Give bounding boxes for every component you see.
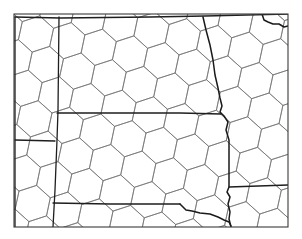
hex-cell	[256, 208, 291, 239]
red-river	[203, 17, 231, 227]
hex-cell	[0, 179, 19, 215]
map-container	[0, 0, 302, 239]
hex-cell	[119, 236, 154, 239]
hex-cell	[88, 229, 123, 239]
hex-cell	[271, 0, 302, 21]
hex-cell	[235, 232, 270, 239]
international-border	[15, 14, 288, 18]
hex-cell	[299, 161, 302, 197]
hex-cell	[291, 45, 302, 81]
hex-cell	[269, 69, 302, 105]
river-borders	[180, 14, 288, 227]
hex-cell	[289, 130, 302, 166]
north-south-dakota-border	[57, 113, 221, 114]
montana-wyoming-border	[15, 140, 55, 141]
hex-cell	[124, 0, 159, 18]
hex-cell	[239, 0, 274, 14]
hex-cell	[141, 212, 176, 239]
hex-cell	[208, 0, 243, 7]
hex-cell	[0, 233, 7, 239]
hex-cell	[0, 148, 9, 184]
minnesota-iowa-border	[229, 185, 288, 187]
hex-cell	[287, 215, 302, 239]
hex-cell	[172, 219, 207, 239]
hex-cell	[56, 223, 91, 239]
south-dakota-nebraska-border	[53, 203, 180, 204]
missouri-river	[180, 204, 231, 226]
hex-cell	[155, 0, 190, 25]
map-canvas	[0, 0, 302, 239]
hex-cell	[93, 0, 128, 11]
hex-cell	[109, 205, 144, 239]
state-borders	[15, 14, 288, 227]
hex-cell	[0, 0, 12, 15]
hex-cell	[61, 0, 96, 5]
hex-cell	[259, 39, 294, 75]
hexagon-grid	[0, 0, 302, 239]
hex-cell	[0, 64, 11, 100]
